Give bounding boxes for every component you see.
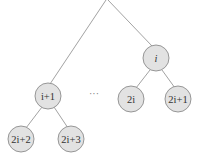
edge-root-i1: [50, 0, 106, 84]
edge-i-2i: [136, 70, 150, 88]
node-i-plus-1: i+1: [35, 83, 61, 109]
node-label: i+1: [41, 91, 55, 102]
edge-i1-2i3: [54, 107, 68, 128]
node-label: 2i: [127, 94, 135, 105]
edge-root-i: [108, 0, 152, 46]
node-label: i: [155, 53, 158, 64]
edge-i-2i1: [162, 70, 175, 88]
edge-i1-2i2: [26, 107, 42, 128]
heap-tree-diagram: i i+1 2i 2i+1 2i+2 2i+3 ···: [0, 0, 198, 158]
node-label: 2i+2: [11, 134, 30, 145]
node-2i-plus-3: 2i+3: [58, 126, 84, 152]
node-label: 2i+3: [61, 134, 80, 145]
node-label: 2i+1: [168, 94, 187, 105]
node-2i-plus-1: 2i+1: [165, 86, 191, 112]
node-2i-plus-2: 2i+2: [8, 126, 34, 152]
ellipsis: ···: [89, 88, 99, 99]
node-2i: 2i: [118, 86, 144, 112]
node-i: i: [143, 45, 169, 71]
